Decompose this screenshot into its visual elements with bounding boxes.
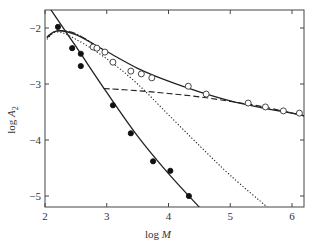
filled-data-point: [150, 159, 155, 164]
filled-data-point: [128, 131, 133, 136]
axis-ticks: 23456−2−3−4−5: [29, 10, 304, 222]
open-data-point: [280, 108, 286, 114]
chart: 23456−2−3−4−5 log M log A2: [0, 0, 313, 244]
filled-data-point: [78, 51, 83, 56]
open-data-point: [128, 68, 134, 74]
data-points: [55, 24, 302, 198]
open-data-point: [296, 110, 302, 116]
x-tick-label: 3: [104, 210, 110, 222]
open-data-point: [110, 59, 116, 65]
filled-data-point: [168, 168, 173, 173]
x-axis-label: log M: [145, 228, 172, 240]
open-data-point: [94, 45, 100, 51]
x-tick-label: 2: [42, 210, 48, 222]
x-tick-label: 6: [289, 210, 295, 222]
y-axis-label: log A2: [5, 106, 20, 134]
y-tick-label: −2: [29, 22, 41, 34]
x-tick-label: 5: [228, 210, 234, 222]
solid-curve: [50, 8, 199, 207]
filled-data-point: [186, 193, 191, 198]
y-tick-label: −5: [29, 190, 41, 202]
open-data-point: [185, 83, 191, 89]
filled-data-point: [78, 63, 83, 68]
y-tick-label: −4: [29, 134, 41, 146]
filled-data-point: [110, 103, 115, 108]
open-data-point: [149, 75, 155, 81]
filled-data-point: [55, 24, 60, 29]
open-data-point: [245, 100, 251, 106]
open-data-point: [102, 49, 108, 55]
open-data-point: [203, 91, 209, 97]
dotted-curve: [47, 32, 267, 207]
filled-data-point: [70, 46, 75, 51]
y-tick-label: −3: [29, 78, 41, 90]
open-data-point: [262, 104, 268, 110]
solid-curve: [47, 31, 304, 116]
open-data-point: [138, 71, 144, 77]
x-tick-label: 4: [166, 210, 172, 222]
